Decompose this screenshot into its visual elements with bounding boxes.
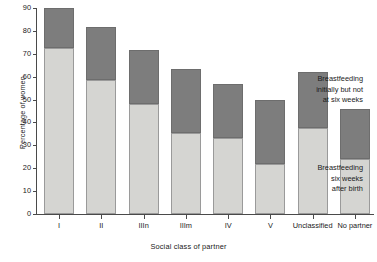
bar-group[interactable] bbox=[213, 84, 243, 214]
bar-group[interactable] bbox=[129, 50, 159, 214]
y-axis-tick: 70 bbox=[5, 54, 36, 55]
x-axis-tick-mark bbox=[270, 215, 271, 219]
bar-segment[interactable] bbox=[86, 27, 116, 80]
bar-group[interactable] bbox=[171, 69, 201, 214]
bar-segment[interactable] bbox=[44, 48, 74, 214]
y-axis-title: Percentage of women bbox=[18, 43, 27, 183]
bar-segment[interactable] bbox=[213, 138, 243, 214]
y-axis-tick-label: 70 bbox=[23, 49, 31, 58]
bar-segment[interactable] bbox=[340, 109, 370, 159]
x-axis-tick-mark bbox=[101, 215, 102, 219]
y-axis-tick: 20 bbox=[5, 168, 36, 169]
y-axis-tick-label: 30 bbox=[23, 140, 31, 149]
x-axis-tick-label: V bbox=[268, 221, 273, 230]
bar-segment[interactable] bbox=[255, 164, 285, 214]
bar-segment[interactable] bbox=[129, 50, 159, 104]
bar-segment[interactable] bbox=[255, 100, 285, 164]
y-axis-tick-label: 20 bbox=[23, 163, 31, 172]
annotation-line: after birth bbox=[287, 184, 363, 195]
y-axis-tick: 60 bbox=[5, 77, 36, 78]
y-axis-tick: 0 bbox=[5, 214, 36, 215]
y-axis-tick-label: 50 bbox=[23, 95, 31, 104]
annotation-line: six weeks bbox=[287, 174, 363, 185]
bar-group[interactable] bbox=[340, 109, 370, 214]
bar-segment[interactable] bbox=[171, 133, 201, 214]
bar-group[interactable] bbox=[86, 27, 116, 214]
bar-segment[interactable] bbox=[213, 84, 243, 139]
x-axis-tick-label: II bbox=[99, 221, 103, 230]
x-axis-tick-label: Unclassified bbox=[293, 221, 333, 230]
x-axis-tick-label: IIIm bbox=[180, 221, 192, 230]
x-axis-tick-label: IIIn bbox=[138, 221, 148, 230]
y-axis-tick-label: 40 bbox=[23, 117, 31, 126]
y-axis-tick: 50 bbox=[5, 100, 36, 101]
y-axis-tick-label: 80 bbox=[23, 26, 31, 35]
annotation-line: Breastfeeding bbox=[287, 74, 363, 85]
annotation-line: initially but not bbox=[287, 85, 363, 96]
y-axis-tick: 30 bbox=[5, 145, 36, 146]
bar-segment[interactable] bbox=[44, 8, 74, 48]
x-axis-tick-label: No partner bbox=[337, 221, 372, 230]
bar-segment[interactable] bbox=[86, 80, 116, 214]
x-axis-tick-mark bbox=[59, 215, 60, 219]
x-axis-tick-mark bbox=[186, 215, 187, 219]
legend-annotation-six-weeks-after-birth: Breastfeedingsix weeksafter birth bbox=[287, 163, 363, 195]
y-axis-tick: 80 bbox=[5, 31, 36, 32]
annotation-line: at six weeks bbox=[287, 95, 363, 106]
x-axis-tick-mark bbox=[144, 215, 145, 219]
bar-segment[interactable] bbox=[171, 69, 201, 133]
bar-segment[interactable] bbox=[129, 104, 159, 214]
x-axis-tick-mark bbox=[228, 215, 229, 219]
x-axis-tick-label: IV bbox=[225, 221, 232, 230]
stacked-bar-chart: Percentage of women 0102030405060708090 … bbox=[0, 0, 377, 262]
legend-annotation-initially-not-six-weeks: Breastfeedinginitially but notat six wee… bbox=[287, 74, 363, 106]
x-axis-tick-mark bbox=[355, 215, 356, 219]
y-axis-tick: 40 bbox=[5, 122, 36, 123]
y-axis-tick-label: 90 bbox=[23, 3, 31, 12]
x-axis-tick-mark bbox=[313, 215, 314, 219]
bar-group[interactable] bbox=[44, 8, 74, 214]
y-axis-tick-label: 60 bbox=[23, 72, 31, 81]
annotation-line: Breastfeeding bbox=[287, 163, 363, 174]
x-axis-tick-label: I bbox=[58, 221, 60, 230]
y-axis-tick-label: 0 bbox=[27, 209, 31, 218]
x-axis-title: Social class of partner bbox=[0, 242, 377, 251]
bar-group[interactable] bbox=[255, 100, 285, 214]
y-axis-tick: 10 bbox=[5, 191, 36, 192]
y-axis-tick-label: 10 bbox=[23, 186, 31, 195]
y-axis-tick: 90 bbox=[5, 8, 36, 9]
